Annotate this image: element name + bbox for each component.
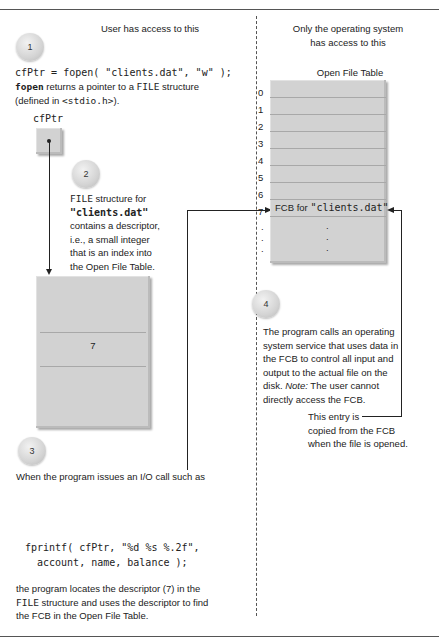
row-index-2: 2 (258, 120, 263, 134)
step2-line: contains a descriptor, (70, 219, 160, 233)
os-heading-line: has access to this (268, 36, 428, 50)
step-2-text: FILE structure for "clients.dat" contain… (70, 192, 160, 273)
cfptr-label: cfPtr (33, 112, 63, 126)
row-index-ellipsis-3: . (261, 242, 264, 256)
desc-text: returns a pointer to a (44, 81, 137, 92)
step2-line: structure for (93, 193, 146, 204)
descriptor-divider-top (40, 332, 146, 333)
step2-line: that is an index into (70, 246, 160, 260)
step4-line: output to the actual file on the (263, 366, 398, 380)
step-3-outro: the program locates the descriptor (7) i… (16, 582, 208, 623)
step-2-badge: 2 (72, 160, 100, 188)
fcb-copy-note: This entry is copied from the FCB when t… (308, 410, 408, 451)
pointer-arrowhead-icon (46, 269, 52, 275)
oft-row-2 (270, 114, 386, 132)
note-line: copied from the FCB (308, 424, 408, 438)
fprintf-code-line2: account, name, balance ); (37, 556, 188, 570)
fopen-desc-line2: (defined in <stdio.h>). (15, 94, 119, 108)
file-structure-box: 7 (36, 276, 150, 428)
step2-line: the Open File Table. (70, 260, 160, 274)
note-line: This entry is (308, 410, 408, 424)
step2-line: i.e., a small integer (70, 233, 160, 247)
row-index-5: 5 (258, 171, 263, 185)
step4-line: system service that uses data in (263, 339, 398, 353)
step-4-badge: 4 (252, 290, 280, 318)
step4-line: disk. (263, 380, 285, 391)
pointer-arrow-line (49, 141, 50, 271)
clients-dat-literal: "clients.dat" (70, 206, 160, 220)
table-ellipsis-2: . (326, 231, 329, 242)
user-side-heading: User has access to this (60, 22, 240, 36)
os-heading-line: Only the operating system (268, 22, 428, 36)
desc-text: (defined in (15, 95, 62, 106)
fopen-keyword: fopen (15, 81, 44, 92)
step4-line: the FCB to control all input and (263, 352, 398, 366)
oft-row-3 (270, 131, 386, 149)
step3-line: the program locates the descriptor (7) i… (16, 582, 208, 596)
file-descriptor-value: 7 (36, 340, 150, 351)
fprintf-code-line1: fprintf( cfPtr, "%d %s %.2f", (25, 541, 200, 555)
fopen-code: cfPtr = fopen( "clients.dat", "w" ); (15, 66, 232, 80)
top-rule (0, 9, 439, 10)
note-line: when the file is opened. (308, 437, 408, 451)
bottom-rule (0, 636, 439, 637)
oft-row-5 (270, 165, 386, 183)
descriptor-divider-bottom (40, 366, 146, 367)
step-1-badge: 1 (16, 33, 44, 61)
row-index-6: 6 (258, 188, 263, 202)
table-ellipsis-3: . (326, 242, 329, 253)
divider-dashed-line (256, 16, 257, 616)
open-file-table-title: Open File Table (270, 66, 430, 80)
fcb-entry: FCB for "clients.dat" (275, 202, 389, 213)
io-call-connector-vertical (187, 210, 188, 470)
step3-line: structure and uses the descriptor to fin… (39, 597, 209, 608)
step4-line: The user cannot (308, 380, 379, 391)
table-ellipsis-1: . (326, 220, 329, 231)
row-index-0: 0 (258, 86, 263, 100)
oft-row-1 (270, 97, 386, 115)
oft-row-0 (270, 80, 386, 98)
stdio-header: <stdio.h> (62, 95, 113, 106)
file-keyword: FILE (16, 597, 39, 608)
fcb-filename: "clients.dat" (310, 202, 388, 213)
fopen-desc-line1: fopen returns a pointer to a FILE struct… (15, 80, 199, 94)
file-keyword: FILE (70, 193, 93, 204)
row-index-1: 1 (258, 103, 263, 117)
oft-row-4 (270, 148, 386, 166)
step4-line: The program calls an operating (263, 325, 398, 339)
oft-row-6 (270, 182, 386, 200)
step3-line: the FCB in the Open File Table. (16, 609, 208, 623)
fcb-label: FCB for (275, 202, 310, 213)
desc-text: ). (114, 95, 120, 106)
os-side-heading: Only the operating system has access to … (268, 22, 428, 49)
oft-row-7-fcb: FCB for "clients.dat" (270, 199, 386, 217)
step-3-intro: When the program issues an I/O call such… (16, 470, 205, 484)
desc-text: structure (159, 81, 199, 92)
fcb-copy-connector-vertical (401, 210, 402, 417)
row-index-4: 4 (258, 154, 263, 168)
step4-line: directly access the FCB. (263, 393, 398, 407)
note-italic: Note: (285, 380, 308, 391)
row-index-7: 7 (258, 205, 263, 219)
io-call-connector-horizontal (187, 210, 266, 211)
row-index-3: 3 (258, 137, 263, 151)
step-3-badge: 3 (18, 437, 46, 465)
step-4-text: The program calls an operating system se… (263, 325, 398, 406)
open-file-table: FCB for "clients.dat" . . . (270, 80, 386, 263)
file-keyword: FILE (137, 81, 160, 92)
